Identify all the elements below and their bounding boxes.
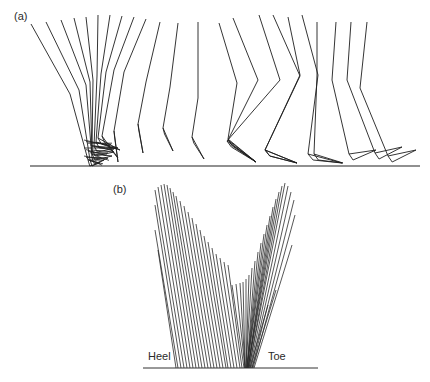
foot-segment: [265, 150, 297, 163]
heel-segment-line: [161, 185, 190, 368]
leg-stick-figure: [347, 22, 402, 159]
foot-segment: [114, 131, 118, 162]
foot-segment: [349, 150, 376, 160]
thigh-shank-segment: [98, 16, 122, 138]
heel-segment-line: [200, 230, 223, 368]
panel-b-label: (b): [113, 183, 126, 195]
foot-segment: [163, 128, 173, 151]
heel-segment-line: [170, 188, 199, 368]
panel-a-label: (a): [14, 10, 27, 22]
leg-stick-figure: [228, 18, 258, 162]
leg-stick-figure: [192, 22, 204, 159]
heel-segment-line: [176, 196, 205, 368]
foot-segment: [192, 137, 204, 159]
foot-segment: [227, 141, 256, 162]
panel-a-swing-stick-figures: [30, 15, 420, 166]
heel-segment-line: [224, 262, 240, 368]
thigh-shank-segment: [347, 22, 375, 153]
foot-segment: [314, 154, 343, 163]
leg-stick-figure: [98, 16, 122, 150]
thigh-shank-segment: [228, 18, 258, 140]
toe-label: Toe: [268, 350, 286, 362]
foot-segment: [308, 154, 342, 163]
heel-segment-line: [184, 206, 211, 368]
thigh-shank-segment: [192, 22, 198, 137]
leg-stick-figure: [163, 23, 178, 151]
leg-stick-figure: [265, 17, 300, 163]
thigh-shank-segment: [332, 22, 349, 154]
leg-stick-figure: [265, 15, 300, 163]
leg-stick-figure: [61, 20, 108, 164]
leg-stick-figure: [138, 22, 160, 153]
thigh-shank-segment: [227, 15, 280, 141]
leg-stick-figure: [360, 22, 416, 162]
thigh-shank-segment: [302, 15, 318, 154]
heel-segment-line: [167, 185, 196, 368]
thigh-shank-segment: [219, 23, 237, 139]
heel-segment-line: [180, 201, 208, 368]
heel-label: Heel: [148, 350, 171, 362]
thigh-shank-segment: [163, 23, 178, 128]
thigh-shank-segment: [265, 15, 300, 150]
gait-figure: [0, 0, 430, 382]
panel-b-foot-angle-fan: [143, 183, 318, 368]
thigh-shank-segment: [360, 22, 388, 156]
foot-segment: [138, 124, 143, 153]
toe-segment-line: [249, 183, 285, 368]
leg-stick-figure: [46, 22, 104, 166]
leg-stick-figure: [31, 24, 100, 166]
thigh-shank-segment: [314, 22, 317, 154]
heel-segment-line: [173, 192, 202, 368]
leg-stick-figure: [219, 23, 256, 162]
leg-stick-figure: [314, 22, 343, 163]
thigh-shank-segment: [61, 20, 92, 158]
leg-stick-figure: [302, 15, 342, 163]
thigh-shank-segment: [138, 22, 160, 124]
thigh-shank-segment: [114, 19, 146, 131]
